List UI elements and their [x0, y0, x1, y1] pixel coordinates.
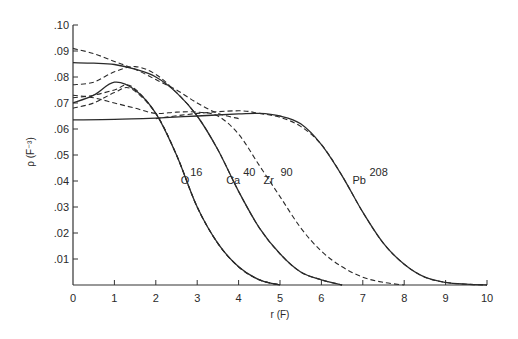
curve-label-o: O: [181, 174, 190, 186]
curve-pb208-solid: [73, 113, 487, 285]
curve-label-mass-number: 208: [369, 166, 387, 178]
axes: 012345678910.01.02.03.04.05.06.07.08.09.…: [54, 19, 493, 304]
x-tick-label: 4: [236, 292, 242, 304]
x-tick-label: 2: [153, 292, 159, 304]
curve-label-ca: Ca: [226, 174, 241, 186]
x-tick-label: 10: [481, 292, 493, 304]
y-tick-label: .03: [54, 201, 69, 213]
curve-label-zr: Zr: [263, 174, 274, 186]
x-tick-label: 0: [70, 292, 76, 304]
curve-ca40-dashed: [73, 67, 342, 285]
curve-label-pb: Pb: [352, 174, 365, 186]
x-tick-label: 3: [194, 292, 200, 304]
y-tick-label: .09: [54, 45, 69, 57]
y-tick-label: .05: [54, 149, 69, 161]
curve-ca40-solid: [73, 63, 342, 285]
x-tick-label: 9: [443, 292, 449, 304]
x-axis-label: r (F): [271, 309, 290, 320]
x-tick-label: 8: [401, 292, 407, 304]
curve-pb208-dashed: [156, 111, 487, 285]
x-tick-label: 1: [111, 292, 117, 304]
curve-label-mass-number: 16: [190, 166, 202, 178]
y-tick-label: .06: [54, 123, 69, 135]
y-tick-label: .08: [54, 71, 69, 83]
y-tick-label: .04: [54, 175, 69, 187]
x-tick-label: 6: [318, 292, 324, 304]
y-tick-label: .02: [54, 227, 69, 239]
curve-label-mass-number: 40: [243, 166, 255, 178]
curve-label-mass-number: 90: [280, 166, 292, 178]
curve-ca40-dashed-high-start: [73, 48, 239, 118]
y-tick-label: .07: [54, 97, 69, 109]
curve-o16-dashed-upper: [73, 85, 280, 285]
y-tick-label: .10: [54, 19, 69, 31]
x-tick-label: 7: [360, 292, 366, 304]
curve-labels: O16Ca40Zr90Pb208: [181, 166, 388, 186]
y-tick-label: .01: [54, 253, 69, 265]
density-chart: 012345678910.01.02.03.04.05.06.07.08.09.…: [0, 0, 518, 339]
y-axis-label: ρ (F⁻³): [25, 137, 36, 167]
x-tick-label: 5: [277, 292, 283, 304]
